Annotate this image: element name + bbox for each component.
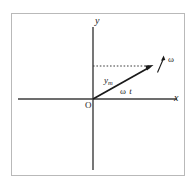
y-axis-label: y [95,16,99,26]
angular-velocity-label: ω [168,55,174,64]
amplitude-label-subscript: m [108,79,113,86]
amplitude-label: ym [104,76,113,87]
rotation-arrowhead-icon [161,55,165,60]
phasor-diagram-svg [0,0,196,189]
figure-root: y x O ym ω t ω [0,0,196,189]
phase-time-variable: t [129,86,132,96]
phase-angle-label: ω t [120,87,132,96]
x-axis-label: x [174,93,178,103]
phase-omega-symbol: ω [120,86,126,96]
rotation-tick-line [158,59,164,73]
origin-label: O [85,101,92,110]
